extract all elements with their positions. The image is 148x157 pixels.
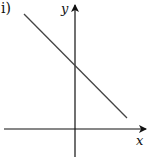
panel-label: i)	[1, 1, 11, 15]
line-graph	[0, 0, 148, 157]
y-axis-label: y	[61, 2, 68, 15]
x-axis-label: x	[136, 134, 143, 147]
